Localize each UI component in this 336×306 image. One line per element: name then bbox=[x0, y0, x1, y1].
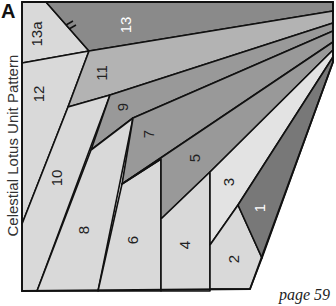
patch-label-2: 2 bbox=[225, 255, 242, 263]
patch-label-11: 11 bbox=[93, 65, 110, 81]
patch-label-12: 12 bbox=[30, 86, 47, 103]
patch-label-10: 10 bbox=[48, 170, 65, 187]
patch-label-3: 3 bbox=[220, 178, 237, 186]
patch-label-1: 1 bbox=[251, 204, 268, 212]
patch-label-13: 13 bbox=[117, 17, 134, 34]
foundation-pattern: 13a13121110987654321 bbox=[0, 0, 336, 306]
patch-label-7: 7 bbox=[140, 130, 157, 138]
patch-label-8: 8 bbox=[75, 226, 92, 234]
patch-label-13a: 13a bbox=[28, 21, 45, 47]
patch-label-4: 4 bbox=[176, 241, 193, 249]
patch-label-5: 5 bbox=[186, 154, 203, 162]
patch-label-9: 9 bbox=[114, 103, 131, 111]
patch-label-6: 6 bbox=[124, 236, 141, 244]
